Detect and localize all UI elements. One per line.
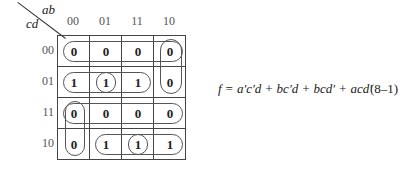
row-header: 10 bbox=[30, 136, 54, 151]
boolean-equation: f = a′c′d + bc′d + bcd′ + acd′ bbox=[218, 81, 372, 97]
row-header: 00 bbox=[30, 43, 54, 58]
group-loop-essential bbox=[96, 72, 116, 93]
row-header: 11 bbox=[30, 105, 54, 120]
group-loop-essential bbox=[128, 134, 148, 155]
row-variable-label: cd bbox=[26, 16, 38, 32]
group-loop-col10-top bbox=[160, 39, 182, 94]
karnaugh-map-grid: 0 0 0 0 1 1 1 0 0 0 0 0 0 1 1 1 bbox=[57, 35, 186, 160]
column-header: 11 bbox=[121, 14, 153, 29]
equation-number: (8–1) bbox=[370, 81, 398, 97]
column-header: 10 bbox=[153, 14, 185, 29]
column-variable-label: ab bbox=[42, 2, 55, 18]
row-header: 01 bbox=[30, 74, 54, 89]
group-loop-col00-bottom bbox=[65, 101, 85, 156]
column-header: 00 bbox=[57, 14, 89, 29]
column-header: 01 bbox=[89, 14, 121, 29]
